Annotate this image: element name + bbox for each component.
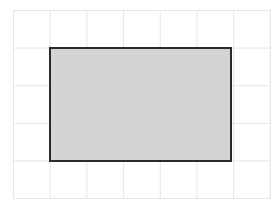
rectangle-shape[interactable]: [49, 47, 232, 162]
